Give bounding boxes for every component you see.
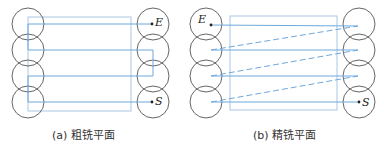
- end-point: [151, 23, 154, 26]
- end-label: E: [154, 16, 163, 29]
- start-point: [358, 101, 361, 104]
- panel-b-finish-milling: E S: [190, 8, 375, 118]
- end-point: [210, 24, 213, 27]
- caption-a: (a) 粗铣平面: [52, 126, 115, 142]
- panel-a-rough-milling: E S: [12, 8, 169, 118]
- rapid-return-passes: [211, 26, 358, 102]
- caption-b: (b) 精铣平面: [253, 126, 316, 142]
- start-label: S: [362, 96, 370, 109]
- tool-path: [28, 24, 153, 102]
- start-point: [151, 101, 154, 104]
- end-label: E: [197, 13, 206, 26]
- start-label: S: [155, 95, 163, 108]
